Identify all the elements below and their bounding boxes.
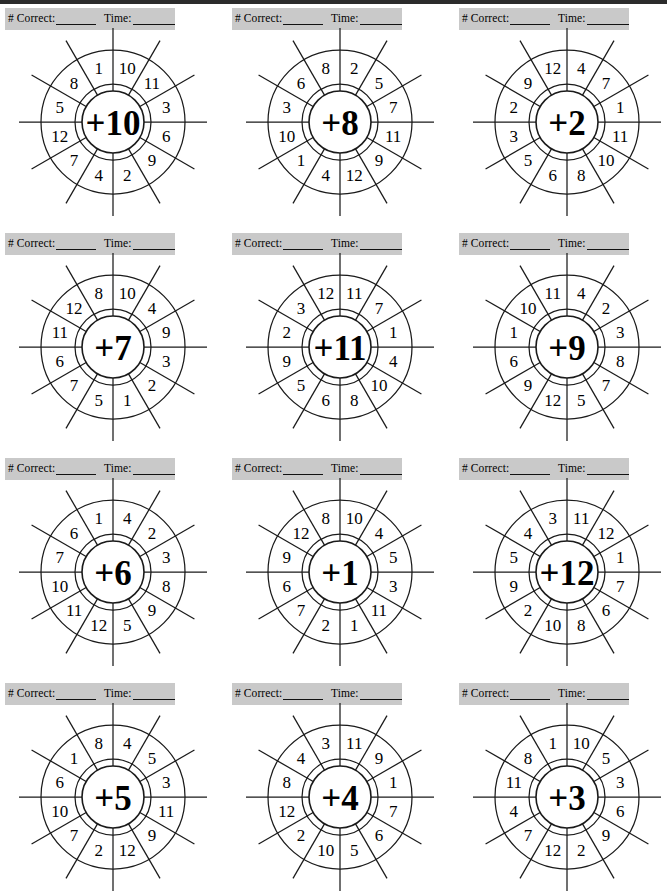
wheel-segment-number: 1 [123,391,132,410]
wheel-segment-number: 5 [350,841,359,860]
wheel-segment-number: 3 [616,323,625,342]
wheel-segment-number: 1 [95,509,104,528]
math-wheel: 128104531112769+1 [227,468,454,675]
wheel-segment-number: 4 [375,524,384,543]
wheel-segment-number: 8 [616,352,625,371]
wheel-segment-number: 10 [597,151,614,170]
wheel-segment-number: 9 [283,352,292,371]
wheel-segment-number: 12 [544,391,561,410]
wheel-segment-number: 9 [148,151,157,170]
wheel-segment-number: 4 [123,734,132,753]
wheel-segment-number: 11 [612,127,628,146]
wheel-segment-number: 1 [350,616,359,635]
wheel-segment-number: 3 [549,509,558,528]
wheel-segment-number: 10 [119,59,136,78]
wheel-segment-number: 7 [56,548,65,567]
wheel-segment-number: 3 [616,773,625,792]
wheel-center-operator: +3 [548,779,585,818]
problem-cell: # Correct:Time:682571191241103+8 [227,0,454,225]
wheel-segment-number: 3 [162,548,171,567]
wheel-segment-number: 7 [389,98,398,117]
wheel-segment-number: 5 [510,548,519,567]
wheel-segment-number: 1 [95,59,104,78]
wheel-segment-number: 8 [322,509,331,528]
wheel-segment-number: 5 [524,151,533,170]
math-wheel: 912471111086532+2 [454,18,667,225]
wheel-segment-number: 4 [577,59,586,78]
wheel-segment-number: 10 [119,284,136,303]
math-wheel: 312117141086592+11 [227,243,454,450]
wheel-segment-number: 3 [162,98,171,117]
wheel-segment-number: 11 [346,734,362,753]
problem-cell: # Correct:Time:912471111086532+2 [454,0,667,225]
wheel-segment-number: 5 [95,391,104,410]
wheel-segment-number: 5 [148,749,157,768]
wheel-segment-number: 10 [573,734,590,753]
math-wheel: 431112176810295+12 [454,468,667,675]
wheel-segment-number: 5 [389,548,398,567]
wheel-segment-number: 3 [162,352,171,371]
wheel-segment-number: 8 [350,391,359,410]
wheel-segment-number: 12 [293,524,310,543]
wheel-segment-number: 3 [389,577,398,596]
wheel-segment-number: 10 [317,841,334,860]
wheel-center-operator: +10 [86,104,141,143]
wheel-segment-number: 9 [375,151,384,170]
wheel-center-operator: +12 [540,554,595,593]
math-wheel: 184531191227106+5 [0,693,227,895]
problem-cell: # Correct:Time:101142387512961+9 [454,225,667,450]
problem-cell: # Correct:Time:811011369247125+10 [0,0,227,225]
wheel-segment-number: 3 [297,299,306,318]
math-wheel: 811011369247125+10 [0,18,227,225]
wheel-segment-number: 10 [51,577,68,596]
math-wheel: 431191765102128+4 [227,693,454,895]
problem-cell: # Correct:Time:431191765102128+4 [227,675,454,895]
wheel-segment-number: 4 [524,524,533,543]
wheel-segment-number: 2 [322,616,331,635]
wheel-segment-number: 1 [549,734,558,753]
wheel-segment-number: 10 [370,376,387,395]
wheel-segment-number: 9 [162,323,171,342]
wheel-segment-number: 12 [278,802,295,821]
wheel-segment-number: 4 [577,284,586,303]
wheel-segment-number: 1 [616,98,625,117]
wheel-segment-number: 5 [602,749,611,768]
wheel-segment-number: 12 [544,59,561,78]
wheel-segment-number: 5 [375,74,384,93]
wheel-segment-number: 12 [90,616,107,635]
wheel-segment-number: 12 [544,841,561,860]
wheel-segment-number: 7 [389,802,398,821]
wheel-segment-number: 7 [70,376,79,395]
wheel-segment-number: 7 [524,826,533,845]
wheel-segment-number: 7 [297,601,306,620]
wheel-segment-number: 8 [322,59,331,78]
wheel-segment-number: 1 [297,151,306,170]
wheel-segment-number: 6 [322,391,331,410]
problem-cell: # Correct:Time:431112176810295+12 [454,450,667,675]
wheel-segment-number: 3 [162,773,171,792]
wheel-segment-number: 8 [577,616,586,635]
wheel-segment-number: 6 [510,352,519,371]
wheel-segment-number: 2 [148,524,157,543]
wheel-segment-number: 6 [616,802,625,821]
problem-cell: # Correct:Time:811053692127411+3 [454,675,667,895]
wheel-segment-number: 3 [283,98,292,117]
wheel-segment-number: 9 [524,74,533,93]
wheel-segment-number: 7 [602,74,611,93]
wheel-segment-number: 1 [389,323,398,342]
wheel-center-operator: +11 [313,329,366,368]
wheel-segment-number: 11 [506,773,522,792]
wheel-segment-number: 6 [162,127,171,146]
wheel-center-operator: +4 [321,779,358,818]
wheel-segment-number: 5 [56,98,65,117]
wheel-segment-number: 9 [375,749,384,768]
wheel-segment-number: 4 [322,166,331,185]
wheel-segment-number: 11 [545,284,561,303]
wheel-center-operator: +8 [321,104,358,143]
wheel-segment-number: 2 [95,841,104,860]
wheel-segment-number: 2 [577,841,586,860]
wheel-segment-number: 11 [346,284,362,303]
wheel-segment-number: 2 [283,323,292,342]
wheel-segment-number: 3 [322,734,331,753]
